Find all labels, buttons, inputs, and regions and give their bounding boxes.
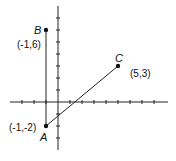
coords-c: (5,3) — [130, 68, 151, 79]
coords-a: (-1,-2) — [9, 122, 36, 133]
point-b — [44, 28, 48, 32]
coordinate-diagram: B (-1,6) C (5,3) (-1,-2) A — [0, 0, 176, 161]
label-b: B — [34, 24, 41, 36]
label-a: A — [39, 131, 47, 143]
coords-b: (-1,6) — [17, 39, 41, 50]
point-c — [116, 64, 120, 68]
point-a — [44, 124, 48, 128]
label-c: C — [115, 52, 123, 64]
segment-ac — [46, 66, 118, 126]
